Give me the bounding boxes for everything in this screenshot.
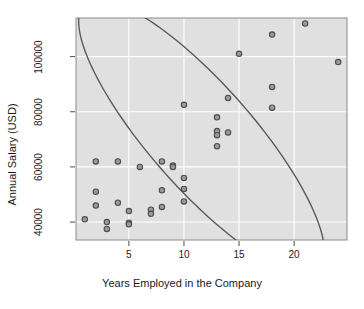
data-point [302,21,307,26]
x-tick-label: 15 [219,249,259,260]
data-point [115,159,120,164]
plot-panel-background [76,18,347,240]
x-tick-label: 20 [274,249,314,260]
scatter-plot-figure: Years Employed in the Company Annual Sal… [0,0,364,309]
data-point [82,217,87,222]
y-axis-title: Annual Salary (USD) [0,0,24,309]
y-tick-label: 40000 [32,194,46,250]
data-point [148,211,153,216]
data-point [335,59,340,64]
data-point [269,32,274,37]
data-point [126,208,131,213]
data-point [181,199,186,204]
data-point [93,203,98,208]
data-point [170,164,175,169]
data-point [159,188,164,193]
data-point [236,51,241,56]
data-point [214,144,219,149]
data-point [214,115,219,120]
data-point [104,226,109,231]
data-point [225,130,230,135]
x-axis-title: Years Employed in the Company [0,277,364,289]
plot-canvas [0,0,364,309]
y-tick-label: 80000 [32,84,46,140]
data-point [115,200,120,205]
x-tick-label: 10 [164,249,204,260]
y-tick-label: 100000 [32,29,46,85]
data-point [104,219,109,224]
x-axis-ticks [129,241,294,246]
data-point [181,102,186,107]
data-point [214,133,219,138]
data-point [181,175,186,180]
data-point [159,204,164,209]
data-point [137,164,142,169]
y-tick-label: 60000 [32,139,46,195]
data-point [181,186,186,191]
data-point [269,105,274,110]
data-point [93,189,98,194]
data-point [126,222,131,227]
x-tick-label: 5 [109,249,149,260]
data-point [225,95,230,100]
data-point [269,84,274,89]
y-axis-ticks [70,57,75,222]
data-point [159,159,164,164]
data-point [93,159,98,164]
